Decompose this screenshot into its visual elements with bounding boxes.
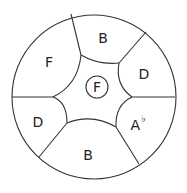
field-top — [81, 55, 119, 63]
note-upper-left: F — [45, 54, 53, 70]
note-top: B — [98, 30, 108, 46]
note-bottom: B — [83, 147, 93, 163]
field-upper-left — [53, 55, 81, 97]
field-lower-left — [53, 97, 67, 123]
note-upper-right: D — [139, 66, 150, 82]
field-upper-right — [118, 63, 132, 97]
handpan-diagram: F B F D D A ♭ B — [0, 0, 187, 193]
flat-accidental: ♭ — [141, 113, 146, 124]
center-note-label: F — [93, 79, 101, 95]
note-lower-left: D — [33, 114, 44, 130]
note-lower-right: A — [130, 117, 140, 133]
field-bottom — [67, 119, 116, 127]
divider-top-left — [71, 14, 81, 55]
divider-top-right — [119, 32, 146, 63]
